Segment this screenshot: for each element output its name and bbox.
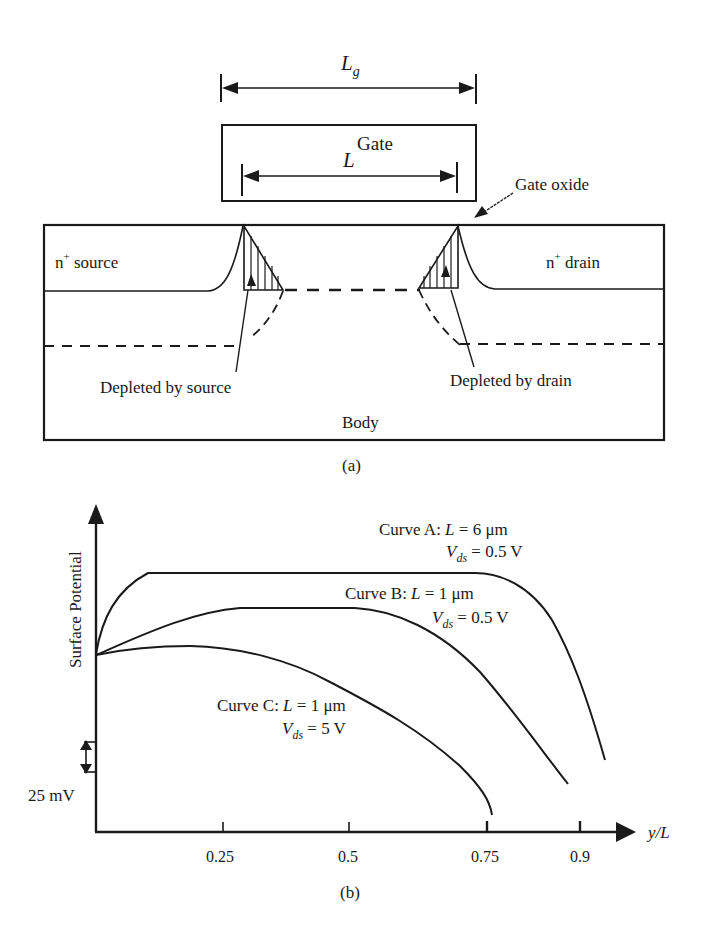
y-axis-arrow-icon [88, 504, 104, 524]
x-ticks [223, 821, 580, 832]
figure-canvas: Lg Gate L Gate oxide n+ source n+ drain [0, 0, 712, 944]
xtick-0-25: 0.25 [206, 848, 234, 865]
gate-oxide-label: Gate oxide [515, 175, 589, 194]
lg-label: Lg [340, 51, 360, 79]
x-axis-arrow-icon [616, 822, 636, 842]
source-label: n+ source [55, 250, 118, 272]
curve-b-label-line1: Curve B: L = 1 μm [345, 584, 474, 603]
depleted-by-source-leader [236, 290, 248, 372]
source-depletion-dashed-curve [250, 291, 283, 338]
curve-c-label-line1: Curve C: L = 1 μm [217, 696, 346, 715]
curve-b-label-line2: Vds = 0.5 V [432, 608, 509, 631]
x-axis-label: y/L [646, 823, 670, 842]
panel-b-surface-potential-chart: 0.25 0.5 0.75 0.9 y/L Surface Potential … [28, 504, 670, 902]
l-label: L [342, 148, 355, 172]
arrowhead-left-icon [222, 82, 238, 94]
curve-c-label-line2: Vds = 5 V [282, 719, 347, 742]
y-axis-label: Surface Potential [66, 551, 85, 668]
body-label: Body [342, 413, 379, 432]
lg-dimension-arrow [221, 74, 476, 104]
drain-depletion-hatched-region [419, 226, 458, 288]
arrowhead-right-icon [459, 82, 475, 94]
panel-a-caption: (a) [342, 456, 361, 475]
curve-a-label-line2: Vds = 0.5 V [446, 542, 523, 565]
depleted-by-source-label: Depleted by source [100, 378, 231, 397]
curve-a-label-line1: Curve A: L = 6 μm [379, 520, 508, 539]
depleted-by-drain-label: Depleted by drain [450, 371, 572, 390]
scale-bar-25mv [80, 740, 96, 774]
xtick-0-5: 0.5 [338, 848, 358, 865]
scale-bar-label: 25 mV [28, 786, 75, 805]
xtick-0-9: 0.9 [570, 848, 590, 865]
source-depletion-hatched-region [244, 226, 283, 290]
depleted-by-drain-leader [451, 290, 474, 367]
panel-a-mosfet-cross-section: Lg Gate L Gate oxide n+ source n+ drain [44, 51, 664, 475]
xtick-0-75: 0.75 [471, 848, 499, 865]
drain-label: n+ drain [546, 250, 600, 272]
gate-oxide-arrow [474, 193, 513, 218]
gate-label: Gate [357, 133, 393, 154]
panel-b-caption: (b) [340, 883, 360, 902]
